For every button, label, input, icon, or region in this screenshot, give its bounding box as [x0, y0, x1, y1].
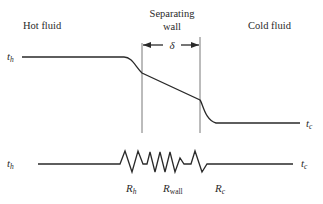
resistance-wall-label: Rwall	[162, 182, 183, 196]
cold-fluid-label: Cold fluid	[248, 20, 292, 31]
separating-wall-label-line2: wall	[163, 21, 181, 32]
hot-temperature-label: th	[7, 50, 14, 64]
separating-wall-label-line1: Separating	[150, 8, 196, 19]
circuit-hot-temperature-label: th	[7, 157, 14, 171]
resistance-circuit	[38, 151, 293, 172]
cold-temperature-label: tc	[306, 117, 313, 131]
circuit-cold-temperature-label: tc	[301, 157, 308, 171]
thickness-symbol: δ	[169, 39, 175, 51]
temperature-profile	[22, 57, 300, 123]
heat-transfer-diagram: Hot fluid Separating wall Cold fluid δ t…	[0, 0, 323, 204]
hot-fluid-label: Hot fluid	[23, 20, 62, 31]
resistance-hot-label: Rh	[125, 182, 137, 196]
resistance-cold-label: Rc	[214, 182, 226, 196]
